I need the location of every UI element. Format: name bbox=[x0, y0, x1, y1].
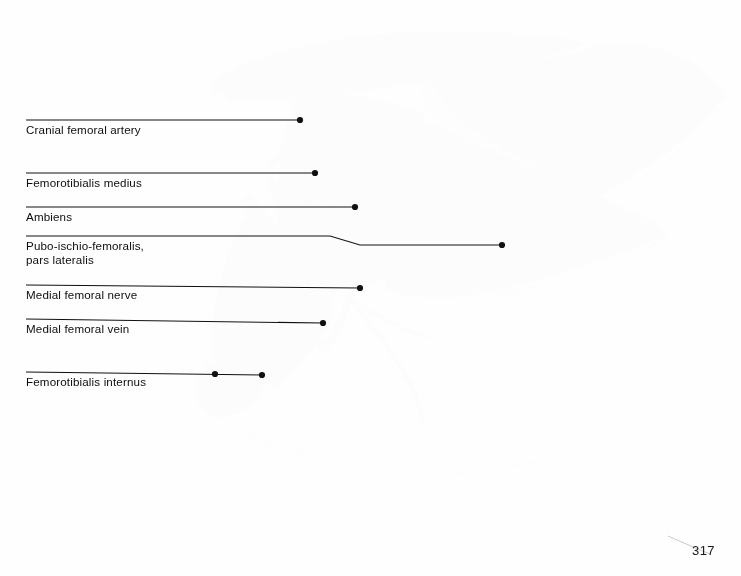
label-pubo-ischio-femoralis-pars-lateralis: Pubo-ischio-femoralis, pars lateralis bbox=[26, 239, 144, 267]
illustration-body bbox=[195, 33, 730, 475]
label-cranial-femoral-artery: Cranial femoral artery bbox=[26, 123, 141, 137]
label-medial-femoral-vein: Medial femoral vein bbox=[26, 322, 129, 336]
label-femorotibialis-internus: Femorotibialis internus bbox=[26, 375, 146, 389]
label-ambiens: Ambiens bbox=[26, 210, 72, 224]
leader-dot-femorotibialis-internus-a bbox=[212, 371, 218, 377]
page-number: 317 bbox=[692, 543, 715, 558]
leader-dot-pubo-ischio-femoralis bbox=[499, 242, 505, 248]
leader-dot-medial-femoral-vein bbox=[320, 320, 326, 326]
leader-dot-femorotibialis-internus-b bbox=[259, 372, 265, 378]
ilioischiadic-fenestra bbox=[569, 101, 638, 170]
leader-dot-ambiens bbox=[352, 204, 358, 210]
leader-dot-femorotibialis-medius bbox=[312, 170, 318, 176]
vessel-ligature-marks bbox=[318, 341, 338, 349]
figure-page: Cranial femoral artery Femorotibialis me… bbox=[0, 0, 741, 576]
leader-dot-medial-femoral-nerve bbox=[357, 285, 363, 291]
leader-dot-cranial-femoral-artery bbox=[297, 117, 303, 123]
label-medial-femoral-nerve: Medial femoral nerve bbox=[26, 288, 137, 302]
label-femorotibialis-medius: Femorotibialis medius bbox=[26, 176, 142, 190]
